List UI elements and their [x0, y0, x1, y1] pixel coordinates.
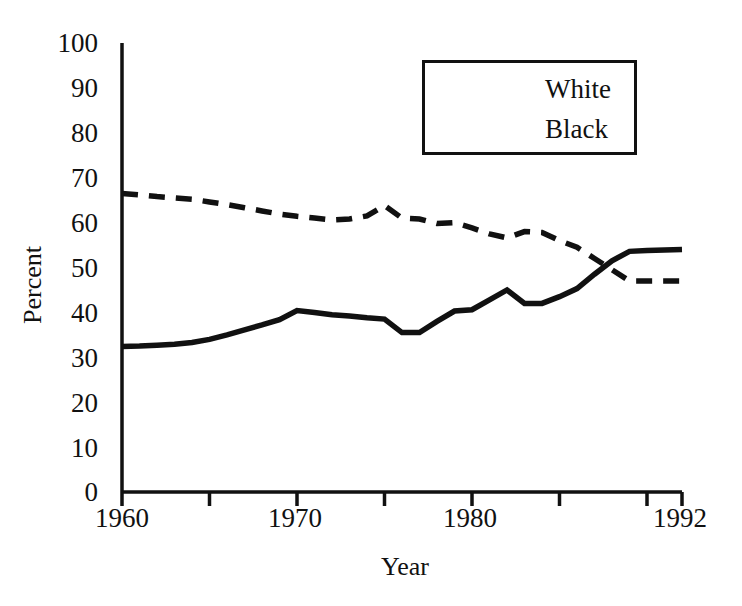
legend: White Black [422, 60, 637, 155]
legend-entry-black: Black [425, 111, 634, 151]
chart-figure: 100 90 80 70 60 50 40 30 20 10 0 1960 19… [0, 0, 742, 606]
legend-label-white: White [545, 74, 611, 104]
series-line-white [122, 193, 682, 281]
series-line-black [122, 250, 682, 347]
x-axis-ticks [122, 492, 682, 506]
legend-label-black: Black [545, 114, 608, 144]
legend-entry-white: White [425, 71, 634, 111]
